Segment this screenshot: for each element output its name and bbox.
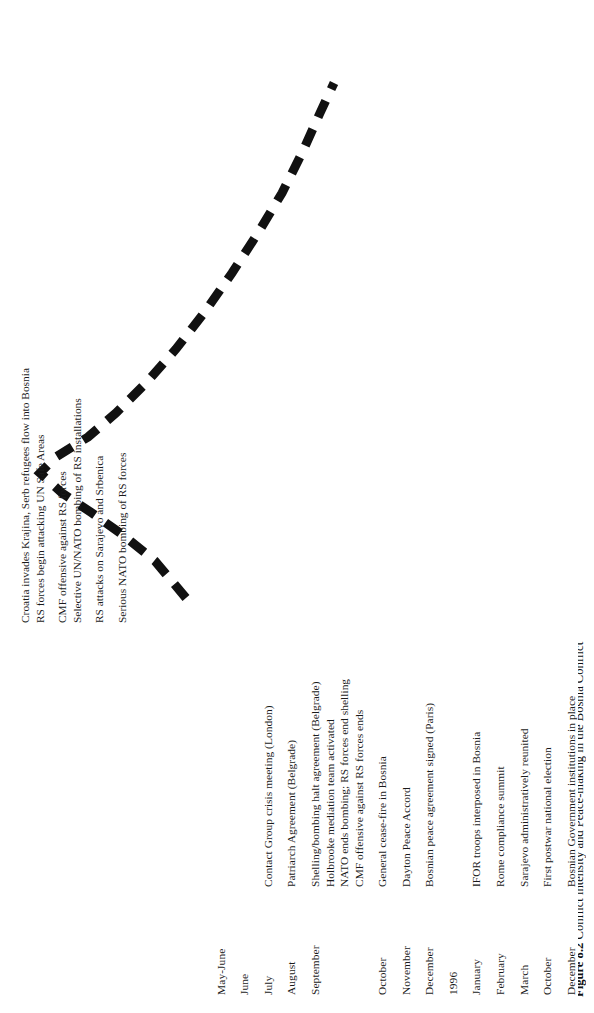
timeline-event: CMF offensive against RS forces ends [352, 295, 367, 887]
rotated-page-wrapper: Croatia invades Krajina, Serb refugees f… [0, 0, 594, 1013]
timeline-row: January IFOR troops interposed in Bosnia [469, 295, 484, 995]
annotation-group: Serious NATO bombing of RS forces [115, 63, 130, 623]
figure-caption-text: Conflict intensity and Peace-making in t… [578, 642, 586, 940]
timeline-events: Patriarch Agreement (Belgrade) [284, 295, 299, 887]
annotation-line: RS forces begin attacking UN Safe Areas [33, 63, 48, 623]
timeline-event: Patriarch Agreement (Belgrade) [284, 295, 299, 887]
curve-annotations: Croatia invades Krajina, Serb refugees f… [18, 63, 138, 623]
figure-caption: Figure 8.2 Conflict intensity and Peace-… [578, 17, 586, 997]
timeline-event: General cease-fire in Bosnia [375, 295, 390, 887]
timeline-event: Bosnian Government institutions in place [564, 295, 579, 887]
timeline-row: July Contact Group crisis meeting (Londo… [261, 295, 276, 995]
timeline-row: November Dayton Peace Accord [399, 295, 414, 995]
timeline-events: Bosnian Government institutions in place [564, 295, 579, 887]
timeline-event: Holbrooke mediation team activated [323, 295, 338, 887]
timeline-period: August [284, 887, 298, 995]
timeline-row: October First postwar national election [540, 295, 555, 995]
timeline-event: Dayton Peace Accord [399, 295, 414, 887]
timeline-events: Sarajevo administratively reunited [517, 295, 532, 887]
annotation-group: Croatia invades Krajina, Serb refugees f… [18, 63, 47, 623]
timeline-row: February Rome compliance summit [493, 295, 508, 995]
timeline-event: First postwar national election [540, 295, 555, 887]
timeline-period: May-June [214, 887, 228, 995]
timeline-row: June [237, 295, 251, 995]
figure-caption-clip: Figure 8.2 Conflict intensity and Peace-… [578, 0, 594, 1013]
timeline-period: July [261, 887, 275, 995]
timeline-event: NATO ends bombing; RS forces end shellin… [337, 295, 352, 887]
timeline-period: January [469, 887, 483, 995]
scanned-page: Croatia invades Krajina, Serb refugees f… [0, 0, 594, 1013]
annotation-line: RS attacks on Sarajevo and Srbenica [92, 63, 107, 623]
timeline-period: June [237, 887, 251, 995]
timeline-period: October [540, 887, 554, 995]
timeline-period: March [517, 887, 531, 995]
timeline-period: February [493, 887, 507, 995]
timeline-period: December [564, 887, 578, 995]
timeline-row-year: 1996 [446, 295, 460, 995]
timeline-row: December Bosnian peace agreement signed … [422, 295, 437, 995]
timeline-event: Shelling/bombing halt agreement (Belgrad… [308, 295, 323, 887]
annotation-line: Serious NATO bombing of RS forces [115, 63, 130, 623]
annotation-line: Selective UN/NATO bombing of RS installa… [70, 63, 85, 623]
timeline-event: Contact Group crisis meeting (London) [261, 295, 276, 887]
timeline-row: May-June [214, 295, 228, 995]
timeline-period: November [399, 887, 413, 995]
annotation-line: Croatia invades Krajina, Serb refugees f… [18, 63, 33, 623]
timeline-event: Bosnian peace agreement signed (Paris) [422, 295, 437, 887]
figure-number: Figure 8.2 [578, 943, 586, 997]
timeline-events: Dayton Peace Accord [399, 295, 414, 887]
timeline-events: Bosnian peace agreement signed (Paris) [422, 295, 437, 887]
timeline-events: Contact Group crisis meeting (London) [261, 295, 276, 887]
event-timeline-list: May-June June July Contact Group crisis … [214, 295, 580, 995]
timeline-period: October [375, 887, 389, 995]
timeline-row: August Patriarch Agreement (Belgrade) [284, 295, 299, 995]
annotation-group: CMF offensive against RS forces Selectiv… [55, 63, 84, 623]
timeline-event: Sarajevo administratively reunited [517, 295, 532, 887]
timeline-events: Rome compliance summit [493, 295, 508, 887]
annotation-line: CMF offensive against RS forces [55, 63, 70, 623]
timeline-year: 1996 [446, 887, 460, 995]
timeline-row: October General cease-fire in Bosnia [375, 295, 390, 995]
timeline-row: December Bosnian Government institutions… [564, 295, 579, 995]
timeline-event: IFOR troops interposed in Bosnia [469, 295, 484, 887]
annotation-group: RS attacks on Sarajevo and Srbenica [92, 63, 107, 623]
timeline-events: General cease-fire in Bosnia [375, 295, 390, 887]
timeline-period: September [308, 887, 322, 995]
timeline-row: September Shelling/bombing halt agreemen… [308, 295, 366, 995]
timeline-events: IFOR troops interposed in Bosnia [469, 295, 484, 887]
timeline-events: First postwar national election [540, 295, 555, 887]
timeline-events: Shelling/bombing halt agreement (Belgrad… [308, 295, 366, 887]
timeline-period: December [422, 887, 436, 995]
timeline-event: Rome compliance summit [493, 295, 508, 887]
timeline-row: March Sarajevo administratively reunited [517, 295, 532, 995]
